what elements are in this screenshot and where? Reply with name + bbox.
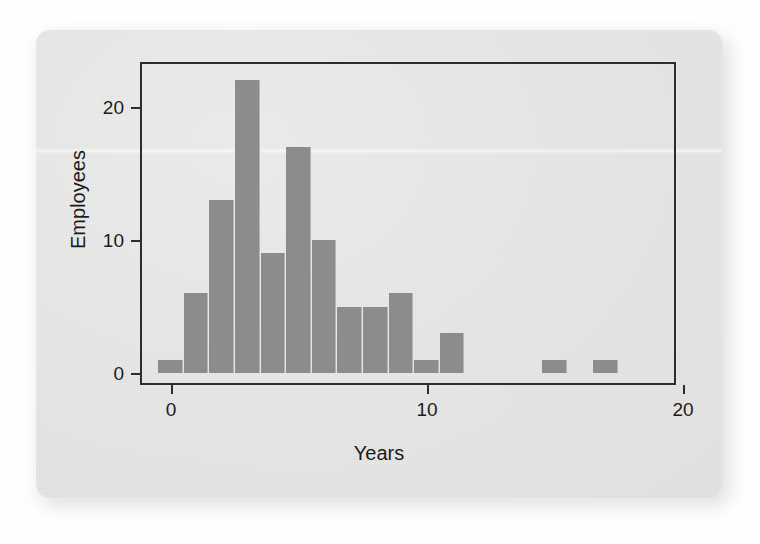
histogram-bar [593,360,618,373]
histogram-bar [337,307,362,374]
bar-series [140,62,676,385]
x-axis-title: Years [36,442,722,465]
histogram-bar [184,293,209,373]
x-tick-mark [683,385,685,394]
y-tick-mark [131,240,140,242]
histogram-bar [414,360,439,373]
histogram-bar [312,240,337,373]
x-tick-label: 0 [166,399,177,421]
histogram-bar [286,147,311,373]
x-tick-label: 20 [672,399,693,421]
y-tick-label: 20 [82,97,124,119]
histogram-bar [389,293,414,373]
histogram-bar [209,200,234,373]
histogram-bar [158,360,183,373]
x-tick-label: 10 [416,399,437,421]
histogram-bar [542,360,567,373]
histogram-bar [261,253,286,373]
histogram-plot: 01020 01020 Years Employees [36,30,722,498]
histogram-bar [235,80,260,373]
y-tick-mark [131,107,140,109]
x-tick-mark [427,385,429,394]
y-tick-label: 0 [82,363,124,385]
y-axis-title: Employees [67,120,90,280]
histogram-bar [363,307,388,374]
y-tick-mark [131,373,140,375]
page-canvas: 01020 01020 Years Employees [0,0,760,544]
x-tick-mark [171,385,173,394]
histogram-bar [440,333,465,373]
figure-card: 01020 01020 Years Employees [36,30,722,498]
